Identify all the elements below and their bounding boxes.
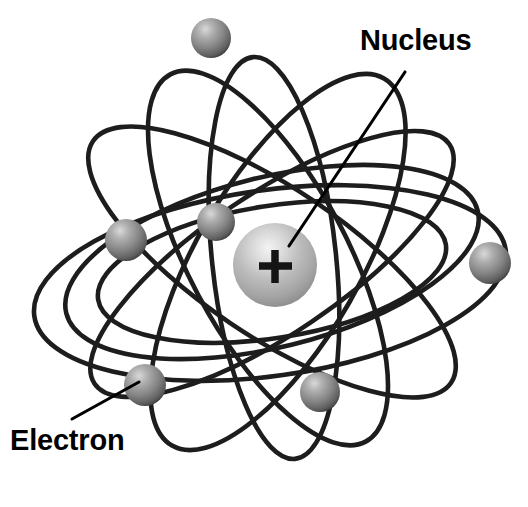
- electron-top: [191, 18, 231, 58]
- atom-diagram: Nucleus Electron: [0, 0, 528, 507]
- electron-lower-left: [124, 364, 166, 406]
- electron-label: Electron: [10, 424, 124, 456]
- electron-inner-left: [197, 203, 235, 241]
- electron-right: [469, 242, 511, 284]
- electron-lower-right: [300, 372, 340, 412]
- nucleus: [233, 223, 317, 307]
- electron-upper-left: [105, 219, 147, 261]
- nucleus-label: Nucleus: [360, 24, 471, 56]
- atom-diagram-canvas: Nucleus Electron: [0, 0, 528, 507]
